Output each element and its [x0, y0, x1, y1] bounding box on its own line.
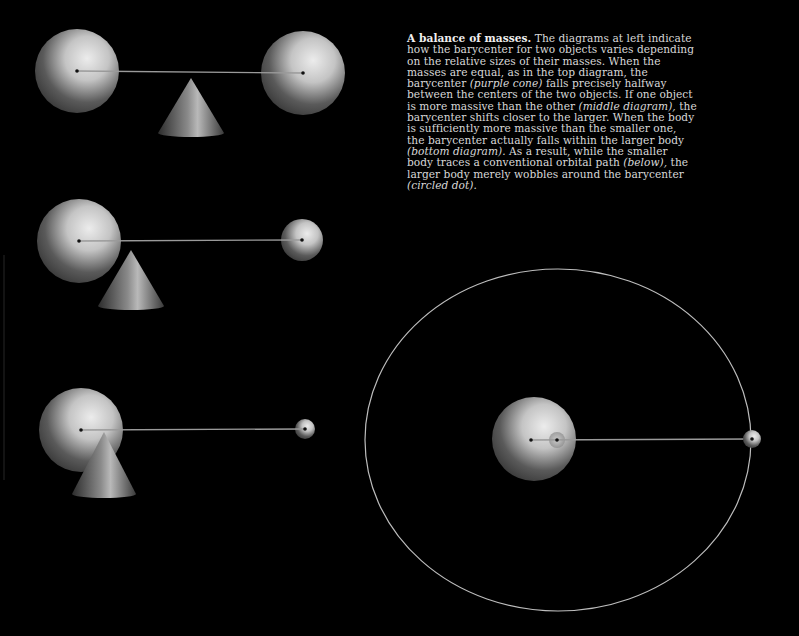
small-center-dot [750, 437, 754, 441]
diagram-equal-masses [35, 29, 345, 137]
caption-emphasis: (circled dot). [407, 179, 477, 191]
large-center-dot [529, 438, 533, 442]
caption-title: A balance of masses. [407, 32, 531, 44]
center-dot [77, 239, 81, 243]
barycenter-cone [158, 78, 224, 137]
center-dot [300, 238, 304, 242]
diagram-unequal-masses [37, 199, 323, 310]
caption-body: The diagrams at left indicate how the ba… [407, 32, 697, 191]
diagram-barycenter-inside [39, 388, 315, 498]
caption-emphasis: (below), [623, 156, 667, 168]
center-dot [75, 69, 79, 73]
barycenter-dot [555, 438, 559, 442]
center-dot [303, 427, 307, 431]
caption-emphasis: (bottom diagram). [407, 145, 506, 157]
center-dot [79, 428, 83, 432]
caption-emphasis: (middle diagram), [579, 100, 676, 112]
center-dot [301, 71, 305, 75]
caption-emphasis: (purple cone) [470, 77, 543, 89]
caption: A balance of masses. The diagrams at lef… [407, 33, 697, 191]
